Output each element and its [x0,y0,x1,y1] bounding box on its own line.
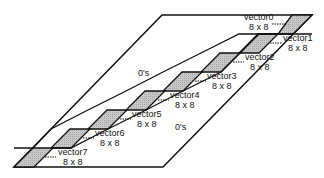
block-label-vector2: vector28 x 8 [245,52,275,72]
block-size: 8 x 8 [245,62,275,72]
block-name: vector7 [58,147,88,157]
block-name: vector2 [245,52,275,62]
block-size: 8 x 8 [207,81,237,91]
block-label-vector3: vector38 x 8 [207,71,237,91]
block-size: 8 x 8 [283,43,313,53]
region-label-lower: 0's [175,122,186,132]
block-name: vector3 [207,71,237,81]
block-label-vector7: vector78 x 8 [58,147,88,167]
block-label-vector1: vector18 x 8 [283,33,313,53]
block-name: vector1 [283,33,313,43]
block-label-vector5: vector58 x 8 [132,109,162,129]
block-name: vector4 [170,90,200,100]
block-name: vector5 [132,109,162,119]
region-label-upper: 0's [138,68,149,78]
block-name: vector6 [95,128,125,138]
block-size: 8 x 8 [58,157,88,167]
block-name: vector0 [244,12,274,22]
block-size: 8 x 8 [244,22,274,32]
diagram-canvas [0,0,324,178]
block-label-vector6: vector68 x 8 [95,128,125,148]
block-label-vector4: vector48 x 8 [170,90,200,110]
block-size: 8 x 8 [132,119,162,129]
block-size: 8 x 8 [170,100,200,110]
block-size: 8 x 8 [95,138,125,148]
block-label-vector0: vector08 x 8 [244,12,274,32]
